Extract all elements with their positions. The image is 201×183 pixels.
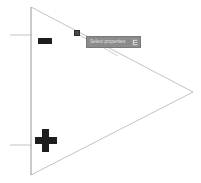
menu-icon[interactable] [132, 39, 138, 46]
edge-tooltip-label: Select properties [90, 39, 130, 45]
plus-sign-icon [35, 129, 57, 152]
widget-canvas: Select properties [0, 0, 201, 183]
edge-control-point-handle[interactable] [74, 30, 80, 36]
triangle-diagram-svg [0, 0, 201, 183]
plus-vertical-bar [42, 129, 49, 152]
edge-properties-tooltip[interactable]: Select properties [86, 36, 141, 48]
minus-sign-icon [38, 38, 52, 44]
